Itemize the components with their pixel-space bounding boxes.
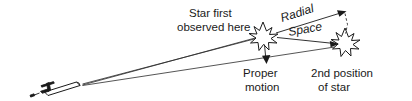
- label-space: Space: [287, 19, 323, 39]
- label-proper-motion-line1: Proper: [243, 67, 278, 79]
- line-of-sight-to-second-position: [83, 47, 339, 86]
- star-first-position: [249, 22, 278, 51]
- label-star-first-observed-line1: Star first: [189, 7, 233, 19]
- proper-motion-head: [262, 55, 270, 64]
- label-second-position-line2: of star: [318, 81, 350, 93]
- space-vector-shaft: [277, 38, 333, 44]
- star-burst-one: [249, 22, 278, 51]
- diagram-canvas: Star first observed here Radial Space Pr…: [0, 0, 412, 101]
- label-second-position-line1: 2nd position: [311, 67, 373, 79]
- label-proper-motion-line2: motion: [245, 81, 280, 93]
- line-of-sight-beam-edge: [83, 36, 263, 85]
- proper-motion-diagram: Star first observed here Radial Space Pr…: [0, 0, 412, 101]
- label-star-first-observed-line2: observed here: [177, 21, 251, 33]
- telescope-eyepiece: [30, 94, 35, 97]
- telescope-icon: [30, 82, 80, 98]
